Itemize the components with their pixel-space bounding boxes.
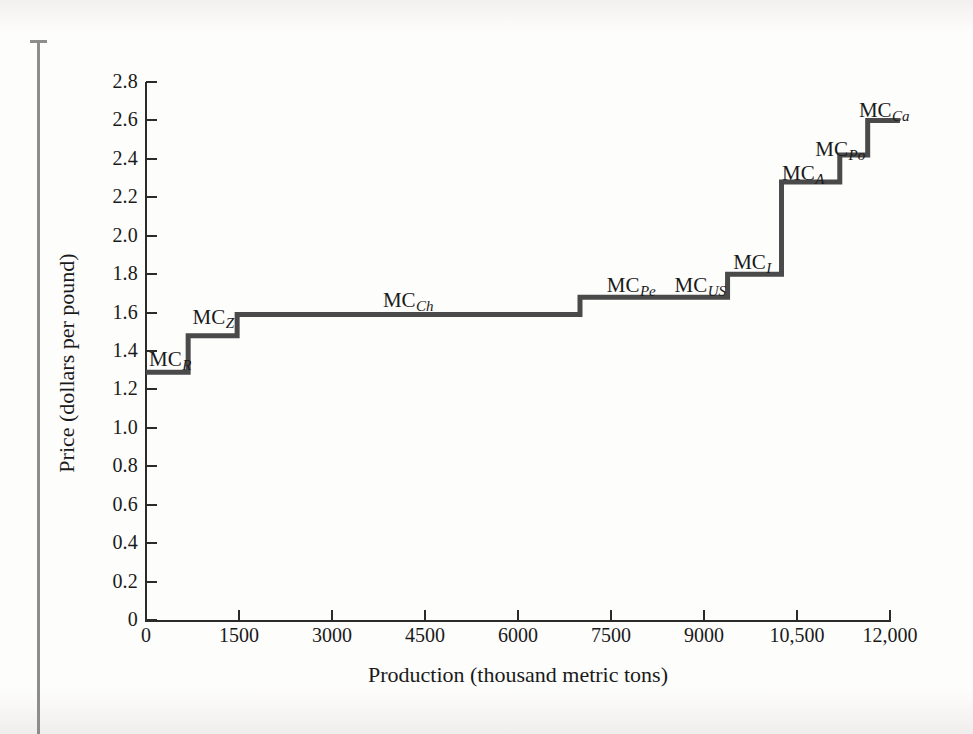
step-label-base: MC [383, 288, 416, 312]
step-label-subscript: Ch [416, 298, 434, 314]
step-label-base: MC [859, 98, 892, 122]
step-label-base: MC [674, 273, 707, 297]
step-label-subscript: R [182, 357, 191, 373]
step-label-base: MC [149, 347, 182, 371]
marginal-cost-step-curve [0, 0, 973, 734]
step-label-base: MC [782, 161, 815, 185]
x-axis-title: Production (thousand metric tons) [145, 662, 891, 688]
step-label-base: MC [733, 250, 766, 274]
figure-page: 00.20.40.60.81.01.21.41.61.82.02.22.42.6… [0, 0, 973, 734]
step-curve-path [146, 120, 900, 372]
step-label-subscript: Ca [892, 108, 910, 124]
step-label-r: MCR [149, 349, 191, 372]
step-label-base: MC [192, 305, 225, 329]
step-label-subscript: Pe [640, 283, 656, 299]
step-label-subscript: I [766, 260, 771, 276]
y-axis-title: Price (dollars per pound) [54, 153, 80, 573]
step-label-ca: MCCa [859, 100, 909, 123]
step-label-subscript: Z [226, 315, 234, 331]
step-label-po: MCPo [815, 139, 864, 162]
step-chart: 00.20.40.60.81.01.21.41.61.82.02.22.42.6… [0, 0, 973, 734]
step-label-i: MCI [733, 252, 771, 275]
step-label-subscript: Po [849, 147, 866, 163]
step-label-pe: MCPe [607, 275, 656, 298]
step-label-base: MC [607, 273, 640, 297]
step-label-z: MCZ [192, 307, 233, 330]
step-label-us: MCUS [674, 275, 725, 298]
step-label-subscript: A [815, 171, 824, 187]
step-label-ch: MCCh [383, 290, 433, 313]
step-label-a: MCA [782, 163, 824, 186]
step-label-base: MC [815, 137, 848, 161]
step-label-subscript: US [708, 283, 726, 299]
